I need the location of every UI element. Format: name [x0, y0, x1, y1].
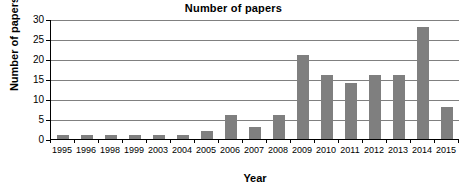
x-tick-mark [314, 140, 315, 143]
bar [369, 75, 381, 139]
x-tick-label: 2003 [146, 145, 170, 155]
bar [177, 135, 189, 139]
x-tick-mark [290, 140, 291, 143]
y-tick-label: 15 [4, 75, 44, 85]
x-axis-title: Year [50, 172, 460, 184]
x-tick-label: 2005 [194, 145, 218, 155]
bar [129, 135, 141, 139]
bar [297, 55, 309, 139]
x-tick-mark [50, 140, 51, 143]
x-tick-label: 2008 [266, 145, 290, 155]
bar [393, 75, 405, 139]
y-tick-label: 25 [4, 35, 44, 45]
x-tick-label: 2011 [338, 145, 362, 155]
x-tick-mark [74, 140, 75, 143]
x-tick-mark [410, 140, 411, 143]
x-tick-mark [98, 140, 99, 143]
bar [201, 131, 213, 139]
x-tick-mark [362, 140, 363, 143]
x-tick-label: 1998 [98, 145, 122, 155]
y-tick-label: 20 [4, 55, 44, 65]
bar [81, 135, 93, 139]
x-tick-label: 2010 [314, 145, 338, 155]
x-tick-mark [242, 140, 243, 143]
bar [273, 115, 285, 139]
x-tick-label: 2009 [290, 145, 314, 155]
x-tick-mark [122, 140, 123, 143]
x-tick-mark [386, 140, 387, 143]
x-tick-mark [434, 140, 435, 143]
bar [57, 135, 69, 139]
x-tick-mark [218, 140, 219, 143]
gridline-25 [51, 40, 459, 41]
bar [417, 27, 429, 139]
x-tick-label: 2006 [218, 145, 242, 155]
x-tick-label: 1995 [50, 145, 74, 155]
bar [441, 107, 453, 139]
x-tick-mark [194, 140, 195, 143]
bar [153, 135, 165, 139]
gridline-20 [51, 60, 459, 61]
x-tick-label: 1996 [74, 145, 98, 155]
x-tick-label: 2013 [386, 145, 410, 155]
chart-title: Number of papers [0, 2, 467, 14]
bar-chart: Number of papers Number of papers 051015… [0, 0, 467, 192]
gridline-30 [51, 20, 459, 21]
y-tick-label: 30 [4, 15, 44, 25]
x-tick-label: 2012 [362, 145, 386, 155]
bar [249, 127, 261, 139]
bar [345, 83, 357, 139]
y-tick-label: 0 [4, 135, 44, 145]
bar [321, 75, 333, 139]
y-tick-label: 5 [4, 115, 44, 125]
x-tick-label: 2014 [410, 145, 434, 155]
x-tick-mark [458, 140, 459, 143]
x-tick-label: 2015 [434, 145, 458, 155]
x-tick-mark [170, 140, 171, 143]
x-tick-mark [266, 140, 267, 143]
y-tick-label: 10 [4, 95, 44, 105]
bar [105, 135, 117, 139]
bar [225, 115, 237, 139]
x-tick-label: 1999 [122, 145, 146, 155]
gridline-0 [51, 139, 459, 140]
x-tick-label: 2007 [242, 145, 266, 155]
plot-area [50, 20, 458, 140]
x-tick-mark [146, 140, 147, 143]
x-tick-label: 2004 [170, 145, 194, 155]
x-tick-mark [338, 140, 339, 143]
